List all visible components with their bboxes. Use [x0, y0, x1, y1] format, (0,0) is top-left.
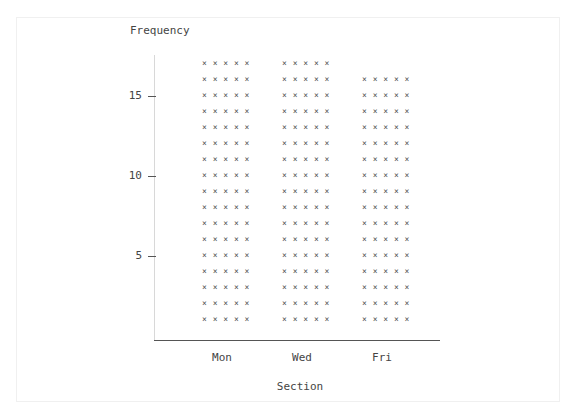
bar-segment: × × × × × [202, 155, 250, 164]
bar-segment: × × × × × [362, 187, 410, 196]
bar-segment: × × × × × [362, 139, 410, 148]
bar-segment: × × × × × [362, 235, 410, 244]
bar-segment: × × × × × [362, 107, 410, 116]
bar-segment: × × × × × [202, 315, 250, 324]
x-axis-line [154, 340, 440, 341]
x-tick-wed: Wed [272, 351, 332, 364]
bar-segment: × × × × × [362, 123, 410, 132]
bar-segment: × × × × × [202, 107, 250, 116]
bar-segment: × × × × × [202, 171, 250, 180]
bar-segment: × × × × × [362, 91, 410, 100]
bar-segment: × × × × × [202, 251, 250, 260]
bar-segment: × × × × × [362, 219, 410, 228]
y-tick-label: 5 [135, 249, 142, 262]
bar-segment: × × × × × [202, 283, 250, 292]
bar-segment: × × × × × [362, 299, 410, 308]
x-axis-label: Section [250, 380, 350, 393]
bar-segment: × × × × × [282, 299, 330, 308]
bar-segment: × × × × × [362, 267, 410, 276]
bar-segment: × × × × × [362, 155, 410, 164]
bar-segment: × × × × × [202, 267, 250, 276]
bar-segment: × × × × × [202, 91, 250, 100]
bar-segment: × × × × × [282, 91, 330, 100]
bar-segment: × × × × × [282, 235, 330, 244]
bar-segment: × × × × × [202, 75, 250, 84]
bar-segment: × × × × × [282, 107, 330, 116]
bar-segment: × × × × × [202, 299, 250, 308]
y-tick-mark [148, 176, 156, 177]
bar-segment: × × × × × [282, 123, 330, 132]
bar-segment: × × × × × [282, 203, 330, 212]
bar-segment: × × × × × [202, 219, 250, 228]
y-tick-10: 10 [0, 170, 154, 182]
y-tick-mark [148, 96, 156, 97]
bar-segment: × × × × × [282, 283, 330, 292]
bar-segment: × × × × × [282, 187, 330, 196]
bar-segment: × × × × × [362, 315, 410, 324]
bar-segment: × × × × × [202, 203, 250, 212]
y-tick-5: 5 [0, 250, 154, 262]
x-tick-fri: Fri [352, 351, 412, 364]
bar-segment: × × × × × [202, 139, 250, 148]
bar-segment: × × × × × [282, 75, 330, 84]
bar-segment: × × × × × [202, 59, 250, 68]
bar-segment: × × × × × [362, 75, 410, 84]
y-axis-label: Frequency [130, 24, 190, 37]
bar-segment: × × × × × [282, 59, 330, 68]
y-tick-mark [148, 256, 156, 257]
y-tick-label: 15 [129, 89, 142, 102]
bar-segment: × × × × × [362, 203, 410, 212]
bar-segment: × × × × × [362, 171, 410, 180]
bar-segment: × × × × × [202, 123, 250, 132]
bar-segment: × × × × × [282, 315, 330, 324]
bar-segment: × × × × × [282, 219, 330, 228]
bar-segment: × × × × × [202, 187, 250, 196]
bar-segment: × × × × × [282, 267, 330, 276]
y-axis-line [154, 55, 155, 341]
bar-segment: × × × × × [282, 251, 330, 260]
y-tick-label: 10 [129, 169, 142, 182]
x-tick-mon: Mon [192, 351, 252, 364]
bar-segment: × × × × × [202, 235, 250, 244]
bar-segment: × × × × × [282, 155, 330, 164]
bar-segment: × × × × × [282, 171, 330, 180]
bar-segment: × × × × × [282, 139, 330, 148]
bar-segment: × × × × × [362, 251, 410, 260]
y-tick-15: 15 [0, 90, 154, 102]
bar-segment: × × × × × [362, 283, 410, 292]
